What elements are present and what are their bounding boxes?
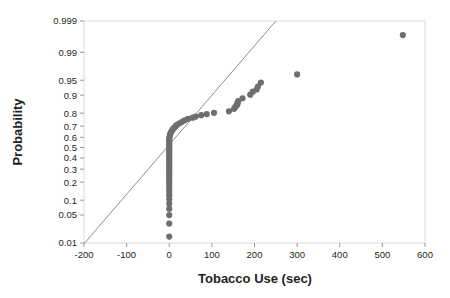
data-point — [166, 212, 172, 218]
x-axis-tick-labels: -200-1000100200300400500600 — [74, 249, 432, 260]
data-point — [166, 220, 172, 226]
x-axis-title: Tobacco Use (sec) — [198, 271, 312, 286]
data-point — [198, 112, 204, 118]
y-axis-ticks — [80, 21, 84, 243]
y-tick-label: 0.8 — [64, 108, 77, 119]
y-tick-label: 0.99 — [59, 47, 78, 58]
x-tick-label: 200 — [247, 249, 263, 260]
data-point — [193, 113, 199, 119]
y-tick-label: 0.3 — [64, 164, 77, 175]
y-axis-tick-labels: 0.010.050.10.20.30.40.50.60.70.80.90.950… — [53, 15, 77, 248]
y-tick-label: 0.4 — [64, 152, 77, 163]
data-point — [204, 111, 210, 117]
data-point — [166, 233, 172, 239]
y-tick-label: 0.7 — [64, 121, 77, 132]
plot-frame — [84, 21, 425, 243]
x-tick-label: -100 — [117, 249, 136, 260]
x-tick-label: 100 — [204, 249, 220, 260]
y-tick-label: 0.6 — [64, 132, 77, 143]
y-tick-label: 0.95 — [59, 75, 78, 86]
data-point — [258, 79, 264, 85]
y-tick-label: 0.999 — [53, 15, 77, 26]
probability-plot-figure: -200-1000100200300400500600 0.010.050.10… — [0, 0, 450, 298]
x-tick-label: 0 — [167, 249, 172, 260]
data-point — [239, 95, 245, 101]
x-tick-label: -200 — [74, 249, 93, 260]
y-tick-label: 0.1 — [64, 195, 77, 206]
y-tick-label: 0.05 — [59, 209, 78, 220]
x-tick-label: 400 — [332, 249, 348, 260]
data-point — [400, 32, 406, 38]
x-tick-label: 300 — [289, 249, 305, 260]
y-axis-title: Probability — [10, 98, 25, 166]
x-tick-label: 600 — [417, 249, 433, 260]
y-tick-label: 0.5 — [64, 142, 77, 153]
data-point — [294, 71, 300, 77]
chart-canvas: -200-1000100200300400500600 0.010.050.10… — [0, 0, 450, 298]
x-axis-ticks — [84, 243, 425, 247]
y-tick-label: 0.01 — [59, 237, 78, 248]
y-tick-label: 0.9 — [64, 90, 77, 101]
x-tick-label: 500 — [374, 249, 390, 260]
y-tick-label: 0.2 — [64, 177, 77, 188]
data-point — [211, 110, 217, 116]
